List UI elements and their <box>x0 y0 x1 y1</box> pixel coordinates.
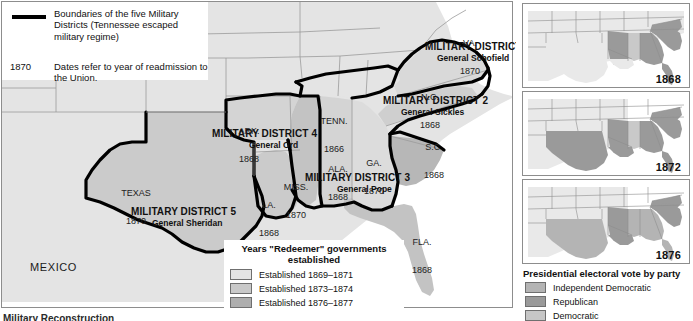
inset-map-1868: 1868 <box>522 3 690 88</box>
redeemer-swatch-2 <box>230 283 252 294</box>
district-general-1: General Schofield <box>437 54 509 63</box>
redeemer-label-2: Established 1873–1874 <box>259 284 353 294</box>
state-label-sc: S.C. 1868 <box>414 124 454 200</box>
inset-column: 1868 <box>517 0 693 321</box>
state-year-la: 1868 <box>252 229 286 238</box>
state-label-fl: FLA. 1868 <box>402 219 442 295</box>
district-general-3: General Pope <box>337 185 392 194</box>
party-swatch-independent-democratic <box>525 282 546 293</box>
map-key: Boundaries of the five Military District… <box>2 2 208 80</box>
inset-map-1876: 1876 <box>522 179 690 264</box>
state-year-sc: 1868 <box>414 171 454 180</box>
redeemer-legend-item: Established 1873–1874 <box>230 282 400 295</box>
redeemer-label-1: Established 1869–1871 <box>259 270 353 280</box>
district-general-4: General Ord <box>249 141 298 150</box>
party-legend-item: Democratic <box>522 309 692 321</box>
state-abbr-tn: TENN. <box>313 117 355 126</box>
party-legend: Presidential electoral vote by party Ind… <box>522 268 692 321</box>
state-abbr-fl: FLA. <box>402 238 442 247</box>
redeemer-legend-item: Established 1876–1877 <box>230 296 400 309</box>
party-legend-item: Independent Democratic <box>522 281 692 294</box>
country-label-mexico: MEXICO <box>30 262 77 274</box>
redeemer-swatch-1 <box>230 269 252 280</box>
state-label-tn: TENN. 1866 <box>313 98 355 174</box>
redeemer-legend: Years "Redeemer" governments established… <box>224 240 404 308</box>
inset-year-1868: 1868 <box>656 73 681 85</box>
inset-year-1876: 1876 <box>656 249 681 261</box>
party-swatch-republican <box>525 296 546 307</box>
state-abbr-la: LA. <box>252 201 286 210</box>
date-key-example: 1870 <box>10 61 31 72</box>
inset-year-1872: 1872 <box>656 161 681 173</box>
party-label-republican: Republican <box>553 297 598 307</box>
boundary-key-text: Boundaries of the five Military District… <box>54 8 208 42</box>
state-year-fl: 1868 <box>402 266 442 275</box>
state-year-al: 1868 <box>320 193 356 202</box>
district-general-5: General Sheridan <box>152 219 222 228</box>
party-legend-item: Republican <box>522 295 692 308</box>
map-figure: Boundaries of the five Military District… <box>0 0 693 321</box>
date-key-text: Dates refer to year of readmission to th… <box>54 61 208 84</box>
district-label-1: MILITARY DISTRICT 1 <box>425 42 516 53</box>
state-abbr-sc: S.C. <box>414 143 454 152</box>
redeemer-legend-title: Years "Redeemer" governments established <box>228 243 400 265</box>
redeemer-legend-item: Established 1869–1871 <box>230 268 400 281</box>
state-abbr-ga: GA. <box>356 159 392 168</box>
district-label-5: MILITARY DISTRICT 5 <box>131 207 236 218</box>
party-label-democratic: Democratic <box>553 311 599 321</box>
main-map-panel: Boundaries of the five Military District… <box>0 0 516 312</box>
boundary-line-swatch <box>12 15 46 19</box>
inset-map-1872: 1872 <box>522 91 690 176</box>
state-year-ar: 1868 <box>230 155 268 164</box>
state-year-tn: 1866 <box>313 145 355 154</box>
state-abbr-tx: TEXAS <box>110 189 162 198</box>
redeemer-label-3: Established 1876–1877 <box>259 298 353 308</box>
party-legend-title: Presidential electoral vote by party <box>523 268 692 279</box>
district-label-4: MILITARY DISTRICT 4 <box>212 129 317 140</box>
state-year-va: 1870 <box>452 67 488 76</box>
district-label-3: MILITARY DISTRICT 3 <box>305 173 410 184</box>
district-label-2: MILITARY DISTRICT 2 <box>383 96 488 107</box>
district-general-2: General Sickles <box>401 108 464 117</box>
party-label-independent-democratic: Independent Democratic <box>553 283 651 293</box>
redeemer-swatch-3 <box>230 297 252 308</box>
party-swatch-democratic <box>525 310 546 321</box>
figure-caption-cutoff: Military Reconstruction <box>3 313 114 321</box>
